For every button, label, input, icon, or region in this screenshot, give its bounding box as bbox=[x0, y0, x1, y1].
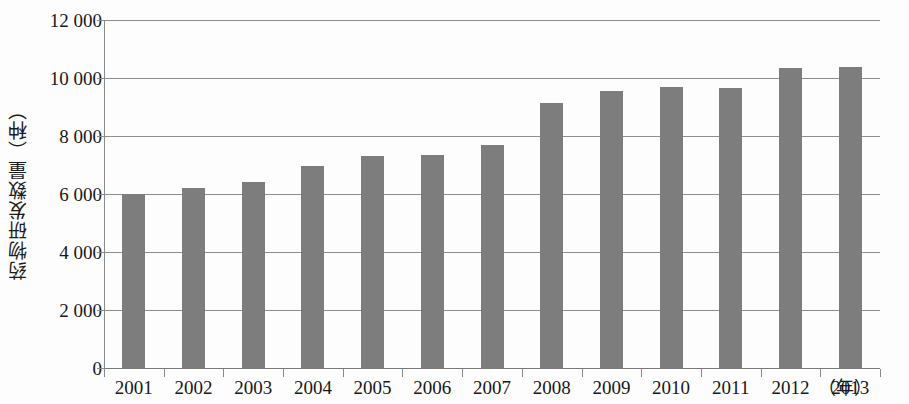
y-tick-label-10000: 10 000 bbox=[30, 69, 102, 88]
x-tick-label-2013: 2013 bbox=[831, 378, 869, 398]
x-tick-mark-3 bbox=[283, 369, 284, 377]
x-tick-mark-9 bbox=[641, 369, 642, 377]
x-tick-label-2003: 2003 bbox=[234, 378, 272, 398]
bar-chart: 药物研发数量（种） 02 0004 0006 0008 00010 00012 … bbox=[0, 0, 909, 404]
x-tick-mark-13 bbox=[880, 369, 881, 377]
bar-2010 bbox=[660, 87, 683, 368]
x-tick-label-2011: 2011 bbox=[712, 378, 749, 398]
x-tick-label-2010: 2010 bbox=[652, 378, 690, 398]
y-tick-label-6000: 6 000 bbox=[30, 185, 102, 204]
x-tick-label-2008: 2008 bbox=[533, 378, 571, 398]
x-tick-mark-8 bbox=[582, 369, 583, 377]
x-tick-mark-6 bbox=[462, 369, 463, 377]
x-tick-label-2009: 2009 bbox=[592, 378, 630, 398]
y-tick-label-0: 0 bbox=[30, 359, 102, 378]
x-tick-mark-0 bbox=[104, 369, 105, 377]
bar-2012 bbox=[779, 68, 802, 368]
x-tick-label-2007: 2007 bbox=[473, 378, 511, 398]
bar-2001 bbox=[122, 194, 145, 368]
x-tick-label-2012: 2012 bbox=[771, 378, 809, 398]
bar-2003 bbox=[242, 182, 265, 368]
plot-area bbox=[104, 20, 880, 368]
x-tick-mark-7 bbox=[522, 369, 523, 377]
y-tick-label-4000: 4 000 bbox=[30, 243, 102, 262]
y-axis-title-label: 药物研发数量（种） bbox=[4, 100, 31, 280]
x-tick-mark-5 bbox=[402, 369, 403, 377]
gridline-8000 bbox=[104, 136, 880, 137]
bar-2009 bbox=[600, 91, 623, 368]
y-tick-mark-6000 bbox=[97, 194, 105, 195]
gridline-12000 bbox=[104, 20, 880, 21]
x-tick-label-2004: 2004 bbox=[294, 378, 332, 398]
bar-2004 bbox=[301, 166, 324, 368]
x-tick-mark-11 bbox=[761, 369, 762, 377]
y-tick-mark-4000 bbox=[97, 252, 105, 253]
x-tick-mark-12 bbox=[820, 369, 821, 377]
x-tick-label-2001: 2001 bbox=[115, 378, 153, 398]
bar-2006 bbox=[421, 155, 444, 368]
x-tick-label-2005: 2005 bbox=[354, 378, 392, 398]
bar-2002 bbox=[182, 188, 205, 368]
y-tick-label-12000: 12 000 bbox=[30, 11, 102, 30]
y-tick-mark-8000 bbox=[97, 136, 105, 137]
bar-2008 bbox=[540, 103, 563, 368]
bar-2011 bbox=[719, 88, 742, 368]
x-tick-mark-2 bbox=[223, 369, 224, 377]
y-tick-mark-10000 bbox=[97, 78, 105, 79]
bar-2007 bbox=[481, 145, 504, 368]
gridline-0 bbox=[104, 368, 880, 369]
x-tick-label-2002: 2002 bbox=[175, 378, 213, 398]
x-tick-mark-1 bbox=[164, 369, 165, 377]
x-tick-mark-10 bbox=[701, 369, 702, 377]
bar-2013 bbox=[839, 67, 862, 368]
y-tick-mark-2000 bbox=[97, 310, 105, 311]
y-tick-label-2000: 2 000 bbox=[30, 301, 102, 320]
x-tick-label-2006: 2006 bbox=[413, 378, 451, 398]
x-tick-mark-4 bbox=[343, 369, 344, 377]
y-tick-label-8000: 8 000 bbox=[30, 127, 102, 146]
y-axis-tick-labels: 02 0004 0006 0008 00010 00012 000 bbox=[28, 0, 102, 404]
gridline-10000 bbox=[104, 78, 880, 79]
bar-2005 bbox=[361, 156, 384, 368]
y-tick-mark-12000 bbox=[97, 20, 105, 21]
